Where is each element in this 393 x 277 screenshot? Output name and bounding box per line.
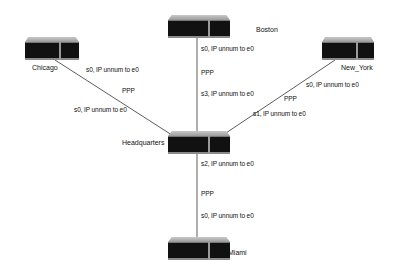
link-label-newyork-hq-interface: s1, IP unnum to e0 xyxy=(253,110,306,117)
link-label-miami-interface: s0, IP unnum to e0 xyxy=(201,212,254,219)
router-chicago[interactable] xyxy=(25,37,79,60)
link-label-newyork-protocol: PPP xyxy=(284,95,297,102)
link-label-chicago-protocol: PPP xyxy=(122,87,135,94)
router-body xyxy=(168,136,230,154)
network-diagram: Chicago Boston New_York Headquarters Mia… xyxy=(0,0,393,277)
router-miami[interactable] xyxy=(168,237,230,260)
node-label-chicago: Chicago xyxy=(32,64,58,71)
link-label-chicago-interface: s0, IP unnum to e0 xyxy=(86,66,139,73)
link-label-hq-miami-protocol: PPP xyxy=(201,190,214,197)
router-divider xyxy=(208,242,210,260)
link-label-hq-miami-interface: s2, IP unnum to e0 xyxy=(201,160,254,167)
router-divider xyxy=(208,136,210,154)
router-body xyxy=(25,42,79,60)
router-body xyxy=(168,20,230,38)
router-boston[interactable] xyxy=(168,15,230,38)
router-new-york[interactable] xyxy=(322,37,374,60)
router-body xyxy=(168,242,230,260)
router-divider xyxy=(208,20,210,38)
node-label-miami: Miami xyxy=(228,249,247,256)
link-label-chicago-hq-interface: s0, IP unnum to e0 xyxy=(74,106,127,113)
link-label-boston-protocol: PPP xyxy=(201,69,214,76)
link-newyork-hq xyxy=(220,60,335,137)
node-label-boston: Boston xyxy=(256,26,278,33)
router-headquarters[interactable] xyxy=(168,131,230,154)
link-label-newyork-interface: s0, IP unnum to e0 xyxy=(306,81,359,88)
node-label-headquarters: Headquarters xyxy=(122,139,164,146)
router-divider xyxy=(356,42,358,60)
node-label-new-york: New_York xyxy=(341,64,373,71)
link-label-boston-interface: s0, IP unnum to e0 xyxy=(201,45,254,52)
router-body xyxy=(322,42,374,60)
link-label-boston-hq-interface: s3, IP unnum to e0 xyxy=(201,90,254,97)
router-divider xyxy=(59,42,61,60)
